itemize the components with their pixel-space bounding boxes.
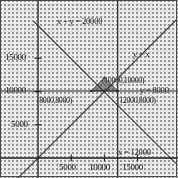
y-tick-label-10000: 10000 (5, 86, 26, 95)
plot-figure: 15000 10000 5000 5000 10000 15000 x + y … (0, 0, 178, 178)
x-tick-label-15000: 15000 (122, 163, 143, 172)
x-tick-label-10000: 10000 (89, 163, 110, 172)
line-label-identity: y = x (133, 50, 150, 59)
line-label-x-constraint: x = 12000 (118, 148, 151, 157)
y-tick-label-15000: 15000 (5, 53, 26, 62)
line-label-y-constraint: y = 8000 (140, 86, 169, 95)
point-label-vertex-right: (12000,8000) (117, 97, 156, 105)
line-label-sum-constraint: x + y = 20000 (57, 17, 102, 26)
y-tick-label-5000: 5000 (11, 120, 28, 129)
x-tick-label-5000: 5000 (59, 163, 76, 172)
point-label-vertex-left: (8000,8000) (37, 97, 72, 105)
point-label-vertex-top: (10000,10000) (102, 77, 144, 85)
